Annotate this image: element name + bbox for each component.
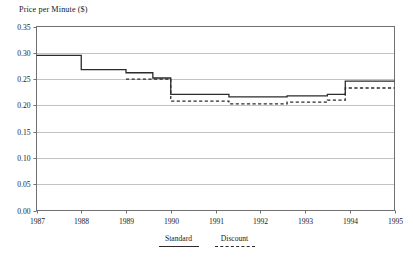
legend-label-discount: Discount — [221, 234, 248, 243]
y-tick-label: 0.05 — [17, 180, 30, 189]
x-tick-label: 1995 — [388, 217, 403, 226]
gridlines — [37, 54, 395, 185]
x-tick-label: 1991 — [209, 217, 224, 226]
chart-legend: Standard Discount — [0, 234, 413, 247]
y-axis-ticks: 0.000.050.100.150.200.250.300.35 — [17, 23, 36, 216]
y-tick-label: 0.30 — [17, 49, 30, 58]
x-tick-label: 1990 — [164, 217, 179, 226]
x-tick-label: 1994 — [343, 217, 358, 226]
legend-swatch-discount — [215, 246, 255, 247]
y-tick-label: 0.10 — [17, 154, 30, 163]
x-tick-label: 1992 — [253, 217, 268, 226]
x-tick-label: 1987 — [30, 217, 45, 226]
y-tick-label: 0.20 — [17, 101, 30, 110]
legend-swatch-standard — [159, 246, 199, 247]
plot-frame — [37, 27, 395, 211]
y-tick-label: 0.15 — [17, 128, 30, 137]
x-tick-label: 1988 — [74, 217, 89, 226]
y-tick-label: 0.35 — [17, 23, 30, 32]
x-tick-label: 1989 — [119, 217, 134, 226]
legend-entry-discount: Discount — [207, 234, 263, 247]
chart-plot-area: 0.000.050.100.150.200.250.300.35 1987198… — [0, 0, 413, 258]
series-line-standard — [37, 55, 395, 97]
x-tick-label: 1993 — [298, 217, 313, 226]
y-tick-label: 0.25 — [17, 75, 30, 84]
chart-container: Price per Minute ($) 0.000.050.100.150.2… — [0, 0, 413, 258]
series-line-discount — [126, 79, 395, 104]
legend-label-standard: Standard — [165, 234, 192, 243]
y-tick-label: 0.00 — [17, 207, 30, 216]
x-axis-ticks: 198719881989199019911992199319941995 — [30, 211, 403, 226]
legend-entry-standard: Standard — [151, 234, 207, 247]
